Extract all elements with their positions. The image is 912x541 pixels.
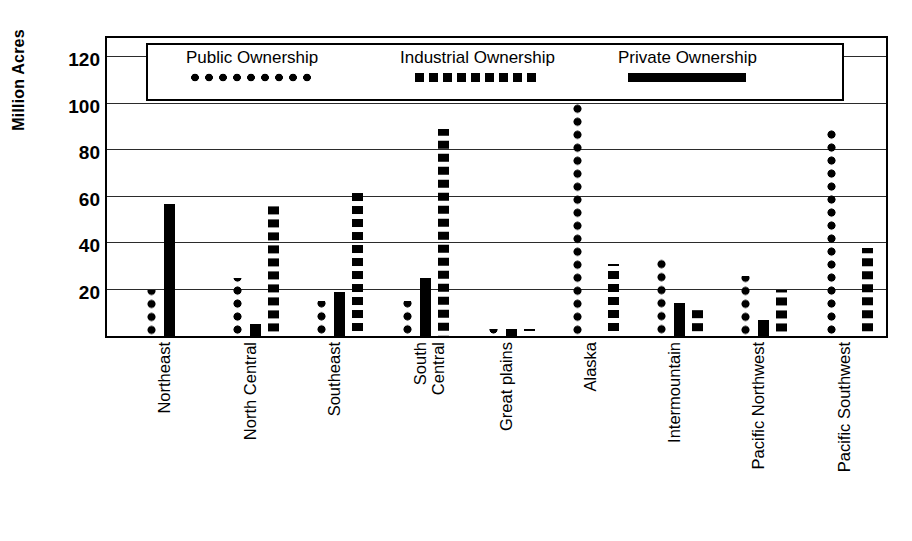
y-axis-title: Million Acres: [10, 0, 28, 180]
legend-entry: Private Ownership: [618, 49, 757, 82]
y-tick-label: 80: [54, 143, 100, 162]
x-axis-label: North Central: [241, 342, 259, 440]
bar-private: [250, 324, 261, 336]
x-axis-label: South Central: [411, 342, 448, 395]
bar-public: [232, 278, 243, 336]
bar-public: [656, 259, 667, 336]
x-axis-label: Southeast: [325, 342, 343, 416]
y-tick-label: 60: [54, 189, 100, 208]
y-tick-label: 120: [54, 50, 100, 69]
bar-industrial: [862, 248, 873, 336]
bar-private: [420, 278, 431, 336]
chart-legend: Public OwnershipIndustrial OwnershipPriv…: [146, 43, 844, 101]
bar-industrial: [524, 329, 535, 336]
dashed-line-swatch-icon: [415, 73, 539, 82]
x-axis-label: Pacific Southwest: [835, 342, 853, 472]
legend-label: Industrial Ownership: [400, 49, 555, 68]
legend-entry: Industrial Ownership: [400, 49, 555, 82]
x-axis-label: Pacific Northwest: [749, 342, 767, 469]
y-tick-label: 20: [54, 282, 100, 301]
legend-label: Public Ownership: [186, 49, 318, 68]
ownership-bar-chart: Million Acres 20406080100120 Public Owne…: [0, 0, 912, 541]
bar-public: [316, 301, 327, 336]
bar-public: [402, 301, 413, 336]
bar-private: [334, 292, 345, 336]
bar-industrial: [268, 204, 279, 336]
y-tick-label: 40: [54, 236, 100, 255]
bar-private: [506, 329, 517, 336]
y-tick-label: 100: [54, 96, 100, 115]
solid-line-swatch-icon: [628, 73, 746, 82]
bar-industrial: [776, 290, 787, 336]
bar-industrial: [438, 129, 449, 336]
bar-private: [758, 320, 769, 336]
x-axis-category-labels: NortheastNorth CentralSoutheastSouth Cen…: [105, 342, 888, 540]
bar-public: [572, 97, 583, 336]
bar-industrial: [608, 264, 619, 336]
legend-label: Private Ownership: [618, 49, 757, 68]
bar-public: [740, 276, 751, 336]
x-axis-label: Northeast: [155, 342, 173, 414]
x-axis-label: Alaska: [581, 342, 599, 392]
x-axis-label: Great plains: [497, 342, 515, 431]
dotted-line-swatch-icon: [188, 73, 316, 82]
bar-industrial: [692, 306, 703, 336]
y-axis-tick-labels: 20406080100120: [50, 36, 100, 338]
bar-industrial: [352, 192, 363, 336]
x-axis-label: Intermountain: [665, 342, 683, 443]
bar-public: [146, 290, 157, 336]
bar-public: [488, 329, 499, 336]
bar-private: [164, 204, 175, 336]
legend-entry: Public Ownership: [186, 49, 318, 82]
bar-public: [826, 127, 837, 336]
bar-private: [674, 303, 685, 336]
